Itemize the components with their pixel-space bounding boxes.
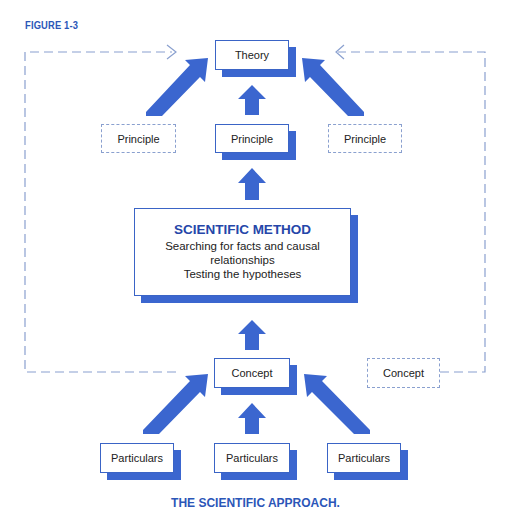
arrow-particulars-left-to-concept (143, 374, 208, 434)
theory-label: Theory (235, 49, 269, 61)
particulars-right-box: Particulars (327, 443, 401, 473)
concept-center-label: Concept (232, 367, 273, 379)
scientific-method-box: SCIENTIFIC METHOD Searching for facts an… (134, 208, 351, 296)
principle-right-box: Principle (328, 124, 402, 153)
arrow-particulars-right-to-concept (304, 374, 370, 434)
arrow-principle-right-to-theory (302, 58, 364, 116)
principle-left-label: Principle (117, 133, 159, 145)
dashed-feedback-right (338, 52, 485, 372)
method-line-2: Testing the hypotheses (184, 267, 302, 281)
principle-right-label: Principle (344, 133, 386, 145)
arrow-particulars-center-to-concept (238, 403, 266, 434)
method-line-1: Searching for facts and causal relations… (135, 239, 350, 267)
figure-caption: THE SCIENTIFIC APPROACH. (0, 496, 511, 510)
particulars-left-box: Particulars (100, 443, 174, 473)
concept-right-box: Concept (367, 358, 440, 388)
concept-right-label: Concept (383, 367, 424, 379)
concept-center-box: Concept (214, 358, 290, 388)
principle-center-label: Principle (231, 133, 273, 145)
particulars-center-label: Particulars (226, 452, 278, 464)
theory-box: Theory (215, 40, 289, 70)
arrow-concept-to-method (238, 320, 266, 350)
particulars-center-box: Particulars (214, 443, 290, 473)
particulars-right-label: Particulars (338, 452, 390, 464)
arrow-principle-to-theory (238, 85, 266, 115)
principle-center-box: Principle (215, 124, 289, 153)
method-title: SCIENTIFIC METHOD (174, 223, 311, 237)
arrow-principle-left-to-theory (146, 58, 208, 116)
arrow-method-to-principle (238, 168, 266, 200)
principle-left-box: Principle (101, 124, 176, 153)
particulars-left-label: Particulars (111, 452, 163, 464)
